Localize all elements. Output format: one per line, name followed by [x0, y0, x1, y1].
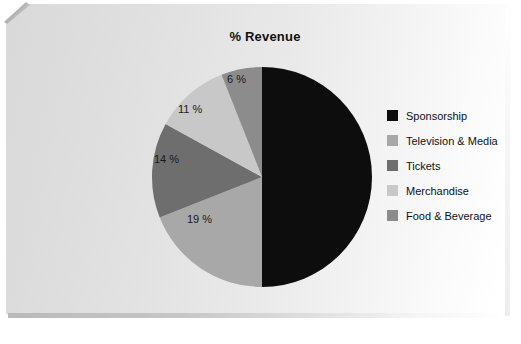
- legend-swatch-icon: [387, 110, 398, 121]
- pie-label-merchandise: 11 %: [178, 103, 202, 115]
- legend-swatch-icon: [387, 135, 398, 146]
- legend-item-label: Tickets: [406, 160, 440, 172]
- chart-legend: SponsorshipTelevision & MediaTicketsMerc…: [387, 103, 511, 228]
- legend-item-label: Sponsorship: [406, 110, 467, 122]
- legend-item-label: Merchandise: [406, 185, 469, 197]
- legend-item: Sponsorship: [387, 103, 511, 128]
- chart-title: % Revenue: [180, 29, 350, 44]
- legend-swatch-icon: [387, 185, 398, 196]
- pie-slice: [262, 67, 372, 287]
- pie-slice-group: [152, 67, 372, 287]
- page-shadow-bottom: [8, 313, 505, 318]
- legend-item: Food & Beverage: [387, 203, 511, 228]
- pie-svg: [150, 65, 376, 291]
- legend-item: Television & Media: [387, 128, 511, 153]
- figure-root: % Revenue 19 % 14 % 11 % 6 % Sponsorship…: [0, 0, 521, 344]
- pie-chart: 19 % 14 % 11 % 6 %: [150, 65, 376, 291]
- legend-item: Merchandise: [387, 178, 511, 203]
- legend-item-label: Television & Media: [406, 135, 498, 147]
- legend-item: Tickets: [387, 153, 511, 178]
- legend-swatch-icon: [387, 210, 398, 221]
- pie-label-television-media: 19 %: [187, 213, 212, 225]
- legend-swatch-icon: [387, 160, 398, 171]
- legend-item-label: Food & Beverage: [406, 210, 492, 222]
- pie-label-tickets: 14 %: [154, 153, 179, 165]
- pie-label-food-beverage: 6 %: [227, 73, 246, 85]
